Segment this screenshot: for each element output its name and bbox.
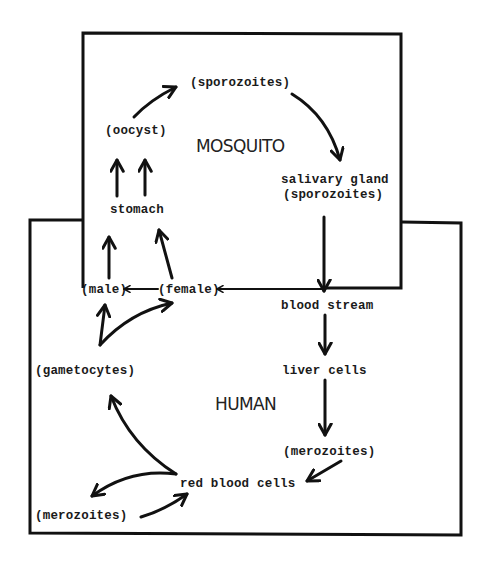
life-cycle-diagram: MOSQUITO HUMAN (sporozoites) (oocyst) st… — [0, 0, 490, 564]
node-salivary-gland: salivary gland — [281, 173, 389, 187]
human-label: HUMAN — [215, 394, 276, 414]
node-blood-stream: blood stream — [281, 299, 374, 313]
arrow-sporozoites-to-salivary — [292, 94, 340, 160]
arrow-merozoites-left-to-rbc — [141, 494, 187, 517]
arrow-rbc-to-merozoites-left — [92, 473, 176, 496]
mosquito-label: MOSQUITO — [196, 136, 285, 156]
node-gametocytes: (gametocytes) — [35, 364, 135, 378]
node-male: (male) — [81, 283, 127, 297]
arrow-rbc-to-gametocytes — [111, 396, 176, 474]
mosquito-region-box — [83, 33, 401, 288]
node-merozoites-right: (merozoites) — [283, 445, 375, 459]
node-stomach: stomach — [110, 203, 164, 217]
node-oocyst: (oocyst) — [105, 124, 167, 138]
node-female: (female) — [158, 283, 220, 297]
node-salivary-sporozoites: (sporozoites) — [283, 188, 383, 202]
node-red-blood-cells: red blood cells — [180, 477, 296, 491]
node-merozoites-left: (merozoites) — [35, 509, 127, 523]
arrow-gametocytes-to-female — [100, 303, 172, 345]
arrow-merozoites-to-rbc — [307, 461, 341, 481]
node-liver-cells: liver cells — [282, 364, 367, 378]
arrow-oocyst-to-sporozoites — [134, 87, 176, 117]
arrow-female-to-stomach — [159, 230, 172, 278]
node-sporozoites-top: (sporozoites) — [190, 76, 290, 90]
